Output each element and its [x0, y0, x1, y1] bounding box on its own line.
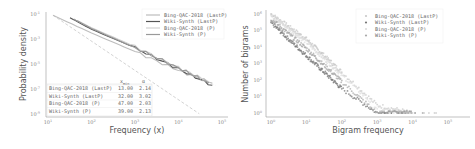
table-row-label: Bing-QAC-2018 (LastP): [49, 85, 112, 92]
x-tick-label: 100: [267, 119, 276, 125]
right-chart-panel: 100101102103104105106 100101102103104105…: [238, 0, 475, 149]
y-tick-label: 10-1: [30, 11, 40, 17]
left-chart-panel: 10-110-310-510-710-9 101102103104105 Bin…: [0, 0, 238, 149]
y-tick-label: 102: [253, 77, 262, 83]
table-row-label: Bing-QAC-2018 (P): [49, 100, 100, 107]
table-cell-xmin: 39.00: [118, 108, 133, 114]
x-tick-label: 105: [218, 119, 227, 125]
y-tick-label: 106: [253, 11, 262, 17]
y-tick-label: 104: [253, 44, 262, 50]
table-row-label: Wiki-Synth (P): [49, 108, 91, 115]
y-tick-label: 10-3: [30, 36, 40, 42]
table-cell-alpha: 3.02: [139, 93, 151, 99]
y-tick-label: 101: [253, 93, 262, 99]
y-tick-label: 103: [253, 60, 262, 66]
power-law-density-chart: 10-110-310-510-710-9 101102103104105 Bin…: [0, 0, 238, 149]
x-tick-label: 102: [337, 119, 346, 125]
x-tick-label: 103: [131, 119, 140, 125]
table-cell-alpha: 2.14: [139, 85, 151, 91]
table-cell-alpha: 2.13: [139, 108, 151, 114]
x-tick-label: 104: [174, 119, 183, 125]
table-row-label: Wiki-Synth (LastP): [49, 93, 103, 100]
table-header: α: [142, 78, 145, 84]
x-tick-label: 101: [302, 119, 311, 125]
x-axis-label: Bigram frequency: [332, 126, 404, 135]
y-tick-label: 100: [253, 110, 262, 116]
y-tick-label: 10-7: [30, 86, 40, 92]
table-cell-alpha: 2.03: [139, 100, 151, 106]
y-axis-label: Probability density: [19, 27, 28, 101]
x-tick-label: 105: [444, 119, 453, 125]
y-tick-label: 10-9: [30, 111, 40, 117]
x-tick-label: 103: [373, 119, 382, 125]
x-tick-label: 104: [408, 119, 417, 125]
x-tick-label: 102: [87, 119, 96, 125]
y-axis-label: Number of bigrams: [241, 25, 250, 102]
x-axis-label: Frequency (x): [110, 126, 165, 135]
x-tick-label: 101: [44, 119, 53, 125]
table-cell-xmin: 13.00: [118, 85, 133, 91]
y-tick-label: 105: [253, 27, 262, 33]
bigram-frequency-chart: 100101102103104105106 100101102103104105…: [238, 0, 475, 149]
table-cell-xmin: 47.00: [118, 100, 133, 106]
legend-entry: Wiki-Synth (P): [164, 31, 206, 38]
y-tick-label: 10-5: [30, 61, 40, 67]
legend-entry: Wiki-Synth (P): [375, 32, 417, 39]
table-cell-xmin: 32.00: [118, 93, 133, 99]
